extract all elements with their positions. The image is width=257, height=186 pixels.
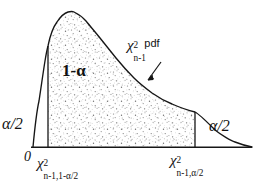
upper-critical-subscript: n-1,α/2	[177, 169, 204, 178]
pdf-label-arrow	[148, 62, 161, 81]
upper-tail-alpha-label: α/2	[209, 118, 230, 134]
lower-critical-superscript: 2	[44, 159, 49, 168]
upper-critical-value-label: χ2n-1,α/2	[170, 153, 177, 168]
pdf-word-label: pdf	[144, 37, 159, 49]
pdf-chi-subscript: n-1	[134, 54, 146, 63]
chi-square-figure: α/2 1-α α/2 0 χ2n-1 pdf χ2n-1,1-α/2 χ2n-…	[0, 0, 257, 186]
origin-label: 0	[24, 150, 31, 164]
upper-critical-chi-glyph: χ	[170, 152, 177, 168]
upper-critical-chi-symbol: χ2n-1,α/2	[170, 153, 177, 168]
pdf-curve-label: χ2n-1 pdf	[127, 38, 160, 53]
confidence-level-label: 1-α	[62, 62, 86, 79]
pdf-chi-glyph: χ	[127, 37, 134, 53]
upper-critical-superscript: 2	[177, 156, 182, 165]
lower-critical-subscript: n-1,1-α/2	[44, 172, 79, 181]
pdf-chi-symbol: χ2n-1	[127, 38, 134, 53]
lower-critical-chi-glyph: χ	[37, 155, 44, 171]
lower-critical-chi-symbol: χ2n-1,1-α/2	[37, 156, 44, 171]
pdf-chi-superscript: 2	[134, 41, 139, 50]
lower-critical-value-label: χ2n-1,1-α/2	[37, 156, 44, 171]
lower-tail-alpha-label: α/2	[2, 116, 23, 132]
